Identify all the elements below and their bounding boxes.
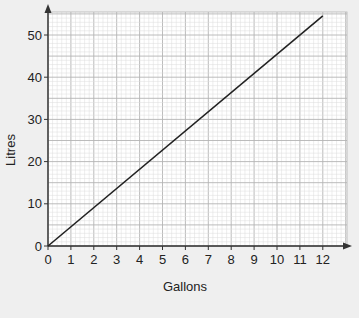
x-tick-label: 5 — [159, 252, 166, 267]
x-tick-label: 4 — [136, 252, 143, 267]
y-tick-label: 50 — [28, 28, 42, 43]
y-tick-label: 10 — [28, 196, 42, 211]
x-axis-ticks: 0123456789101112 — [44, 246, 330, 267]
x-tick-label: 1 — [67, 252, 74, 267]
x-tick-label: 11 — [293, 252, 307, 267]
y-tick-label: 0 — [35, 239, 42, 254]
plot-area — [48, 12, 347, 246]
y-tick-label: 20 — [28, 154, 42, 169]
y-axis-ticks: 01020304050 — [28, 28, 48, 254]
y-tick-label: 30 — [28, 112, 42, 127]
x-tick-label: 8 — [228, 252, 235, 267]
x-tick-label: 9 — [250, 252, 257, 267]
x-axis-arrow-icon — [343, 243, 352, 250]
x-tick-label: 10 — [270, 252, 284, 267]
x-tick-label: 2 — [90, 252, 97, 267]
x-tick-label: 3 — [113, 252, 120, 267]
x-tick-label: 12 — [316, 252, 330, 267]
x-axis-label: Gallons — [163, 279, 208, 294]
y-axis-arrow-icon — [45, 4, 52, 13]
x-tick-label: 0 — [44, 252, 51, 267]
gallons-litres-chart: 0123456789101112 01020304050 Gallons Lit… — [0, 0, 359, 318]
y-tick-label: 40 — [28, 70, 42, 85]
x-tick-label: 6 — [182, 252, 189, 267]
x-tick-label: 7 — [205, 252, 212, 267]
y-axis-label: Litres — [3, 134, 18, 166]
